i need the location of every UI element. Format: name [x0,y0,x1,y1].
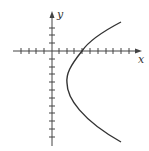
y-axis [49,11,55,146]
y-axis-label: y [56,8,64,21]
x-axis [13,48,142,54]
parabola-curve [67,22,121,142]
x-axis-label: x [138,53,145,66]
y-axis-arrow-icon [50,11,55,18]
parabola-chart: y x [0,0,149,151]
